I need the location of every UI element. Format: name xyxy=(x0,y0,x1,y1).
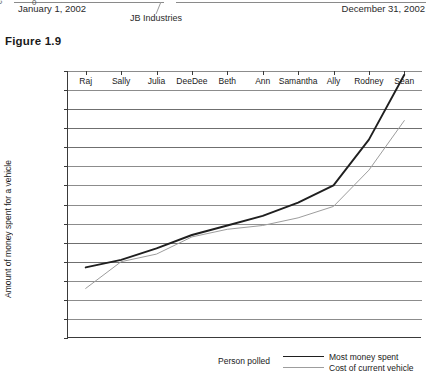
chart-legend: Most money spent Cost of current vehicle xyxy=(283,351,414,373)
y-axis-tick xyxy=(64,338,68,339)
legend-label: Most money spent xyxy=(329,352,398,362)
previous-figure-rotated-label: e xyxy=(0,0,3,4)
legend-swatch-cost-of-current-vehicle xyxy=(283,367,324,368)
previous-figure-remnant: e 0 January 1, 2002 December 31, 2002 JB… xyxy=(0,0,431,30)
plot-area: 0$5,000$10,000$15,000$20,000$25,000$30,0… xyxy=(67,71,421,338)
legend-item: Cost of current vehicle xyxy=(283,362,414,373)
series-line xyxy=(86,121,405,289)
legend-label: Cost of current vehicle xyxy=(329,363,414,373)
previous-figure-date-left: January 1, 2002 xyxy=(18,3,86,14)
figure-caption: Figure 1.9 xyxy=(5,35,61,47)
previous-figure-date-right: December 31, 2002 xyxy=(342,3,425,14)
legend-item: Most money spent xyxy=(283,351,414,362)
series-lines xyxy=(68,71,422,338)
series-line xyxy=(86,75,405,268)
line-chart: Amount of money spent for a vehicle 0$5,… xyxy=(0,60,431,374)
previous-figure-company-label: JB Industries xyxy=(130,13,182,23)
y-axis-title: Amount of money spent for a vehicle xyxy=(2,131,14,327)
legend-swatch-most-money-spent xyxy=(283,356,324,357)
